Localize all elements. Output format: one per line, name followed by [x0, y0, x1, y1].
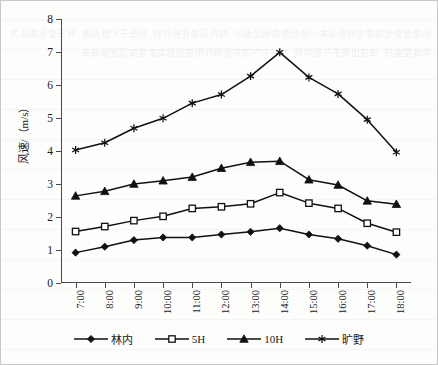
legend-marker-filled-diamond: [74, 332, 108, 346]
x-axis-tick-label: 11:00: [191, 290, 202, 314]
data-point-open-square: [131, 217, 137, 223]
data-point-filled-diamond: [305, 231, 312, 238]
x-axis-tick-label: 10:00: [162, 290, 173, 314]
series-line: [76, 52, 397, 152]
x-axis-tick-label: 15:00: [307, 290, 318, 314]
data-point-filled-diamond: [218, 231, 225, 238]
data-point-filled-diamond: [247, 228, 254, 235]
legend-item-label: 旷野: [342, 331, 364, 347]
legend-item-1[interactable]: 林内: [74, 331, 133, 347]
series-3: [71, 157, 400, 207]
x-axis-tick: [192, 283, 193, 288]
y-axis-tick-label: 1: [47, 244, 53, 256]
data-point-open-square: [306, 200, 312, 206]
legend-item-2[interactable]: 5H: [155, 332, 205, 346]
x-axis-tick-label: 18:00: [395, 290, 406, 314]
x-axis-tick: [134, 283, 135, 288]
x-axis-tick-label: 8:00: [103, 290, 114, 309]
figure-container: 的速度变化规律与林外基本一致但数值明显偏小 林内风速在各时刻 均低于旷野风速 其…: [0, 0, 438, 365]
data-point-open-square: [393, 229, 399, 235]
data-point-filled-diamond: [87, 335, 94, 342]
x-axis-tick: [367, 283, 368, 288]
x-axis-tick: [105, 283, 106, 288]
y-axis-tick-label: 0: [47, 277, 53, 289]
x-axis-tick: [309, 283, 310, 288]
data-point-filled-diamond: [130, 237, 137, 244]
x-axis-tick-label: 13:00: [249, 290, 260, 314]
x-axis-tick: [76, 283, 77, 288]
y-axis-tick-label: 2: [47, 211, 53, 223]
data-point-open-square: [335, 205, 341, 211]
series-line: [76, 228, 397, 254]
plot-area: 012345678 7:008:009:0010:0011:0012:0013:…: [61, 19, 411, 283]
x-axis-tick: [163, 283, 164, 288]
series-4: [72, 48, 400, 156]
data-point-open-square: [189, 205, 195, 211]
data-point-open-square: [247, 201, 253, 207]
legend-marker-asterisk: [305, 332, 339, 346]
y-axis-tick-label: 8: [47, 13, 53, 25]
data-point-open-square: [364, 220, 370, 226]
x-axis-tick: [280, 283, 281, 288]
data-point-open-square: [102, 223, 108, 229]
data-point-filled-diamond: [334, 235, 341, 242]
x-axis-tick: [221, 283, 222, 288]
data-point-open-square: [160, 213, 166, 219]
x-axis-tick: [396, 283, 397, 288]
legend-item-4[interactable]: 旷野: [305, 331, 364, 347]
legend-marker-filled-triangle: [227, 332, 261, 346]
legend-item-label: 林内: [111, 331, 133, 347]
x-axis-tick-label: 16:00: [337, 290, 348, 314]
data-point-open-square: [218, 204, 224, 210]
data-point-open-square: [169, 336, 175, 342]
data-point-asterisk: [130, 124, 137, 132]
x-axis-tick-label: 9:00: [132, 290, 143, 309]
data-point-filled-diamond: [393, 251, 400, 258]
y-axis-tick-label: 7: [47, 46, 53, 58]
data-point-open-square: [277, 189, 283, 195]
series-2: [72, 189, 399, 235]
x-axis-tick-label: 14:00: [278, 290, 289, 314]
series-1: [72, 225, 400, 259]
data-point-asterisk: [160, 114, 167, 122]
series-line: [76, 193, 397, 233]
legend-item-label: 10H: [264, 333, 283, 345]
y-axis-tick: [56, 283, 61, 284]
data-point-open-square: [72, 228, 78, 234]
chart-legend: 林内5H10H旷野: [1, 331, 437, 347]
y-axis-title: 风速/（m/s）: [15, 102, 31, 165]
y-axis-tick-label: 6: [47, 79, 53, 91]
data-point-filled-diamond: [72, 249, 79, 256]
legend-item-3[interactable]: 10H: [227, 332, 283, 346]
series-layer: [61, 19, 411, 283]
series-line: [76, 161, 397, 204]
data-point-filled-diamond: [159, 234, 166, 241]
x-axis-tick-label: 17:00: [366, 290, 377, 314]
x-axis-tick: [338, 283, 339, 288]
x-axis-tick: [251, 283, 252, 288]
data-point-filled-diamond: [276, 225, 283, 232]
x-axis-tick-label: 12:00: [220, 290, 231, 314]
y-axis-tick-label: 3: [47, 178, 53, 190]
data-point-filled-triangle: [305, 176, 313, 184]
x-axis-tick-label: 7:00: [74, 290, 85, 309]
legend-item-label: 5H: [192, 333, 205, 345]
data-point-filled-diamond: [364, 242, 371, 249]
legend-marker-open-square: [155, 332, 189, 346]
data-point-filled-diamond: [101, 243, 108, 250]
y-axis-tick-label: 4: [47, 145, 53, 157]
data-point-filled-diamond: [189, 234, 196, 241]
y-axis-tick-label: 5: [47, 112, 53, 124]
